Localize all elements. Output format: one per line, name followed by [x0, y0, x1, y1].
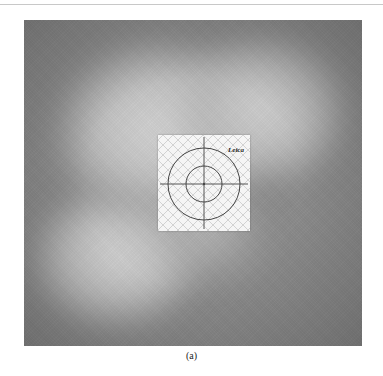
target-crosshair-icon: Leica [158, 135, 250, 231]
reflective-target: Leica [158, 135, 250, 231]
top-rule [0, 4, 383, 5]
target-logo: Leica [227, 146, 244, 154]
figure-photo: Leica [24, 20, 362, 346]
figure-caption: (a) [0, 350, 383, 361]
